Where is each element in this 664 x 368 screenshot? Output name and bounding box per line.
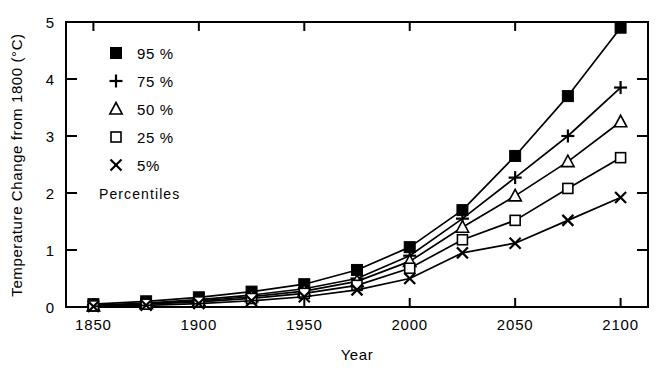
data-point-filled-square <box>510 150 521 161</box>
legend-note-text: Percentiles <box>99 186 180 202</box>
data-point-open-square <box>563 183 573 193</box>
data-point-open-square <box>616 153 626 163</box>
x-tick-label: 2100 <box>602 316 639 333</box>
x-axis-title-text: Year <box>341 346 374 363</box>
y-tick-label: 0 <box>46 299 55 316</box>
data-point-filled-square <box>562 91 573 102</box>
legend-item-label: 5% <box>137 157 160 174</box>
temperature-percentile-line-chart: Temperature Change from 1800 (°C) Year 1… <box>0 0 664 368</box>
y-tick-label: 4 <box>46 71 55 88</box>
legend-item-label: 25 % <box>137 129 174 146</box>
chart-figure: Temperature Change from 1800 (°C) Year 1… <box>0 0 664 368</box>
data-point-open-square <box>405 263 415 273</box>
legend-item-label: 50 % <box>137 101 174 118</box>
data-point-open-square <box>194 297 204 307</box>
y-tick-label: 3 <box>46 128 55 145</box>
y-tick-label: 1 <box>46 242 55 259</box>
y-axis-title-text: Temperature Change from 1800 (°C) <box>8 33 25 296</box>
y-tick-label: 2 <box>46 185 55 202</box>
data-point-open-square <box>457 235 467 245</box>
legend-item-label: 75 % <box>137 73 174 90</box>
legend-marker-open-square <box>111 132 121 142</box>
y-axis-title: Temperature Change from 1800 (°C) <box>8 33 25 296</box>
y-tick-label: 5 <box>46 14 55 31</box>
x-tick-label: 1850 <box>75 316 112 333</box>
data-point-filled-square <box>615 22 626 33</box>
x-tick-label: 2000 <box>391 316 428 333</box>
legend-item-label: 95 % <box>137 45 174 62</box>
legend-marker-filled-square <box>111 48 122 59</box>
data-point-open-square <box>510 215 520 225</box>
x-tick-label: 2050 <box>497 316 534 333</box>
x-tick-label: 1950 <box>286 316 323 333</box>
x-tick-label: 1900 <box>181 316 218 333</box>
